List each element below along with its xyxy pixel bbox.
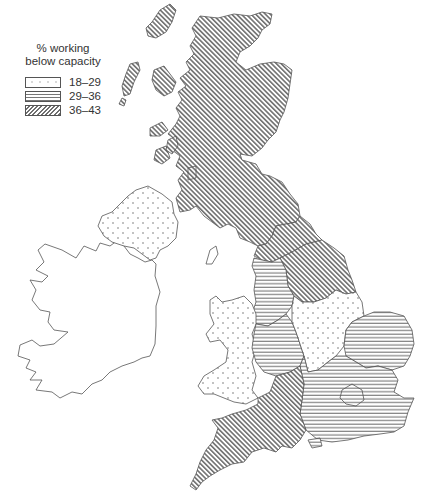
island-mull (150, 122, 168, 136)
legend: % working below capacity 18–29 29–36 36–… (22, 42, 112, 117)
island-isle-of-man (206, 246, 218, 264)
diagonal-hatch-pattern-swatch (25, 105, 61, 116)
island-arran (188, 166, 196, 180)
legend-title-line1: % working (22, 42, 104, 55)
region-scotland[interactable] (168, 12, 300, 246)
island-lewis (146, 4, 176, 38)
legend-title-line2: below capacity (22, 55, 104, 68)
region-republic-of-ireland (18, 240, 160, 398)
legend-label: 18–29 (69, 76, 101, 88)
dots-pattern-swatch (25, 77, 61, 88)
island-skye (152, 66, 176, 96)
legend-item-36-43: 36–43 (25, 103, 112, 117)
legend-item-18-29: 18–29 (25, 75, 112, 89)
island-barra (119, 98, 126, 106)
horizontal-lines-pattern-swatch (25, 91, 61, 102)
region-wales[interactable] (198, 296, 258, 404)
legend-item-29-36: 29–36 (25, 89, 112, 103)
legend-label: 29–36 (69, 90, 101, 102)
island-uist (122, 62, 140, 96)
legend-label: 36–43 (69, 104, 101, 116)
legend-title: % working below capacity (22, 42, 104, 68)
island-isle-of-wight (308, 438, 322, 448)
